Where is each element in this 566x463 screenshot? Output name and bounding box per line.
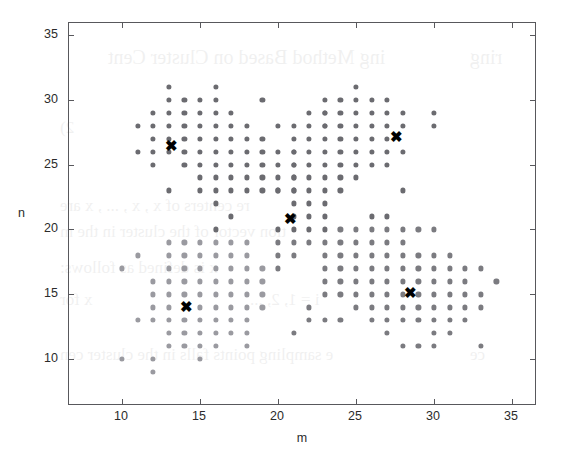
x-axis-tick [356,399,357,404]
data-point [213,240,218,245]
data-point [447,292,452,297]
data-point [322,123,327,128]
data-point [416,344,421,349]
data-point [182,318,187,323]
data-point [213,136,218,141]
data-point [338,110,343,115]
data-point [353,97,358,102]
data-point [338,123,343,128]
data-point [229,123,234,128]
data-point [260,266,265,271]
data-point [385,305,390,310]
data-point [431,110,436,115]
data-point [291,188,296,193]
data-point [447,266,452,271]
data-point [400,253,405,258]
y-axis-tick [69,294,74,295]
data-point [197,279,202,284]
data-point [307,188,312,193]
data-point [197,292,202,297]
data-point [369,227,374,232]
data-point [244,292,249,297]
data-point [385,279,390,284]
data-point [166,253,171,258]
data-point [213,318,218,323]
data-point [400,227,405,232]
data-point [431,253,436,258]
data-point [197,123,202,128]
data-point [213,305,218,310]
data-point [369,253,374,258]
data-point [229,305,234,310]
data-point [353,253,358,258]
data-point [182,331,187,336]
data-point [229,136,234,141]
data-point [385,266,390,271]
data-point [244,240,249,245]
data-point [307,305,312,310]
data-point [197,136,202,141]
cluster-center-marker: ✖ [284,210,297,225]
data-point [447,305,452,310]
data-point [182,240,187,245]
data-point [151,149,156,154]
data-point [307,240,312,245]
data-point [151,123,156,128]
data-point [275,240,280,245]
data-point [166,110,171,115]
x-axis-tick [200,23,201,28]
y-tick-label: 20 [0,221,58,235]
data-point [463,305,468,310]
data-point [431,318,436,323]
data-point [213,201,218,206]
data-point [229,292,234,297]
data-point [416,227,421,232]
data-point [244,149,249,154]
y-tick-label: 30 [0,92,58,106]
data-point [385,292,390,297]
data-point [385,318,390,323]
data-point [151,136,156,141]
data-point [260,305,265,310]
data-point [322,149,327,154]
x-tick-label: 35 [504,409,518,423]
data-point [400,266,405,271]
y-tick-label: 25 [0,157,58,171]
data-point [400,318,405,323]
data-point [307,214,312,219]
y-tick-label: 15 [0,286,58,300]
data-point [322,162,327,167]
data-point [275,227,280,232]
data-point [400,188,405,193]
data-point [322,201,327,206]
x-tick-label: 15 [192,409,206,423]
data-point [385,136,390,141]
data-point [322,292,327,297]
data-point [431,279,436,284]
data-point [275,149,280,154]
data-point [197,305,202,310]
data-point [369,292,374,297]
y-axis-tick [530,35,535,36]
data-point [151,305,156,310]
data-point [353,110,358,115]
data-point [353,279,358,284]
data-point [260,175,265,180]
data-point [182,123,187,128]
data-point [385,331,390,336]
data-point [213,162,218,167]
data-point [151,318,156,323]
data-point [385,227,390,232]
data-point [369,240,374,245]
x-axis-tick [122,399,123,404]
y-axis-title: n [18,206,25,220]
data-point [369,305,374,310]
data-point [369,318,374,323]
data-point [197,253,202,258]
data-point [447,253,452,258]
data-point [431,344,436,349]
data-point [151,279,156,284]
data-point [166,292,171,297]
data-point [182,344,187,349]
data-point [431,227,436,232]
